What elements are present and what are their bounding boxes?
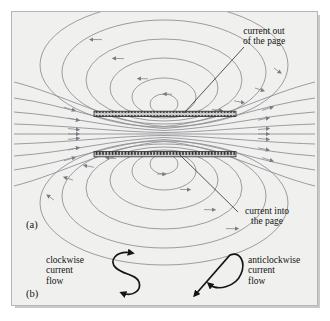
conductor-lower	[94, 151, 236, 156]
legend-clockwise-line2: current	[46, 265, 116, 275]
conductor-upper	[94, 111, 236, 116]
leader-line-current-out	[184, 47, 244, 113]
legend-clockwise: clockwise current flow	[46, 255, 116, 286]
legend-anticlockwise-line1: anticlockwise	[248, 255, 318, 265]
anticlockwise-symbol-icon	[195, 254, 243, 295]
clockwise-symbol-icon	[113, 252, 140, 294]
annotation-current-out-line1: current out	[212, 26, 316, 36]
legend-anticlockwise: anticlockwise current flow	[248, 255, 318, 286]
annotation-current-into-line1: current into	[217, 206, 317, 216]
annotation-current-into-page: current into the page	[217, 206, 317, 227]
figure-caption	[11, 307, 323, 321]
legend-anticlockwise-line2: current	[248, 265, 318, 275]
panel-a-label: (a)	[26, 219, 38, 230]
panel-b-label: (b)	[26, 288, 38, 299]
figure-panel: current out of the page current into the…	[11, 11, 318, 306]
field-lines-group	[14, 12, 315, 265]
annotation-current-out-of-page: current out of the page	[212, 26, 316, 47]
annotation-current-out-line2: of the page	[212, 36, 316, 46]
legend-clockwise-line1: clockwise	[46, 255, 116, 265]
annotation-current-into-line2: the page	[217, 216, 317, 226]
figure-root: current out of the page current into the…	[0, 0, 330, 321]
legend-clockwise-line3: flow	[46, 276, 116, 286]
legend-anticlockwise-line3: flow	[248, 276, 318, 286]
lower-loop-set	[40, 141, 288, 265]
